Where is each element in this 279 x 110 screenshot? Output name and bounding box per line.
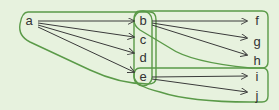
group-outline-b-fgh [134,11,268,68]
group-outline-e-ij [134,68,268,102]
edge-a-e [38,27,134,72]
edge-e-j [152,79,247,92]
node-i: i [256,70,259,83]
node-d: d [139,51,146,64]
node-g: g [253,35,260,48]
edge-a-c [38,23,134,37]
node-c: c [140,33,147,46]
edge-a-d [38,25,134,53]
node-f: f [255,14,259,27]
edge-b-h [152,25,247,55]
edge-b-g [152,23,247,38]
node-e: e [139,70,146,83]
node-a: a [25,14,32,27]
node-j: j [256,89,259,102]
graph-diagram: a b c d e f g h i j [0,0,279,110]
edge-e-i [152,76,247,77]
node-h: h [253,54,260,67]
group-outline-a-bcde [20,12,156,84]
node-b: b [139,14,146,27]
